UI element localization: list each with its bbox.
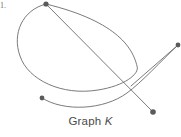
graph-vertex-B: [176, 43, 181, 48]
caption-graph-name: K: [105, 115, 113, 127]
graph-edge-e3: [131, 45, 178, 86]
graph-vertex-C: [40, 96, 45, 101]
graph-caption: Graph K: [0, 115, 181, 127]
graph-vertex-A: [43, 1, 48, 6]
graph-edge-e2: [46, 4, 153, 112]
graph-vertex-D: [150, 109, 156, 115]
caption-prefix: Graph: [68, 115, 101, 127]
graph-edge-e4: [42, 45, 178, 107]
graph-figure: 1. Graph K: [0, 0, 181, 137]
